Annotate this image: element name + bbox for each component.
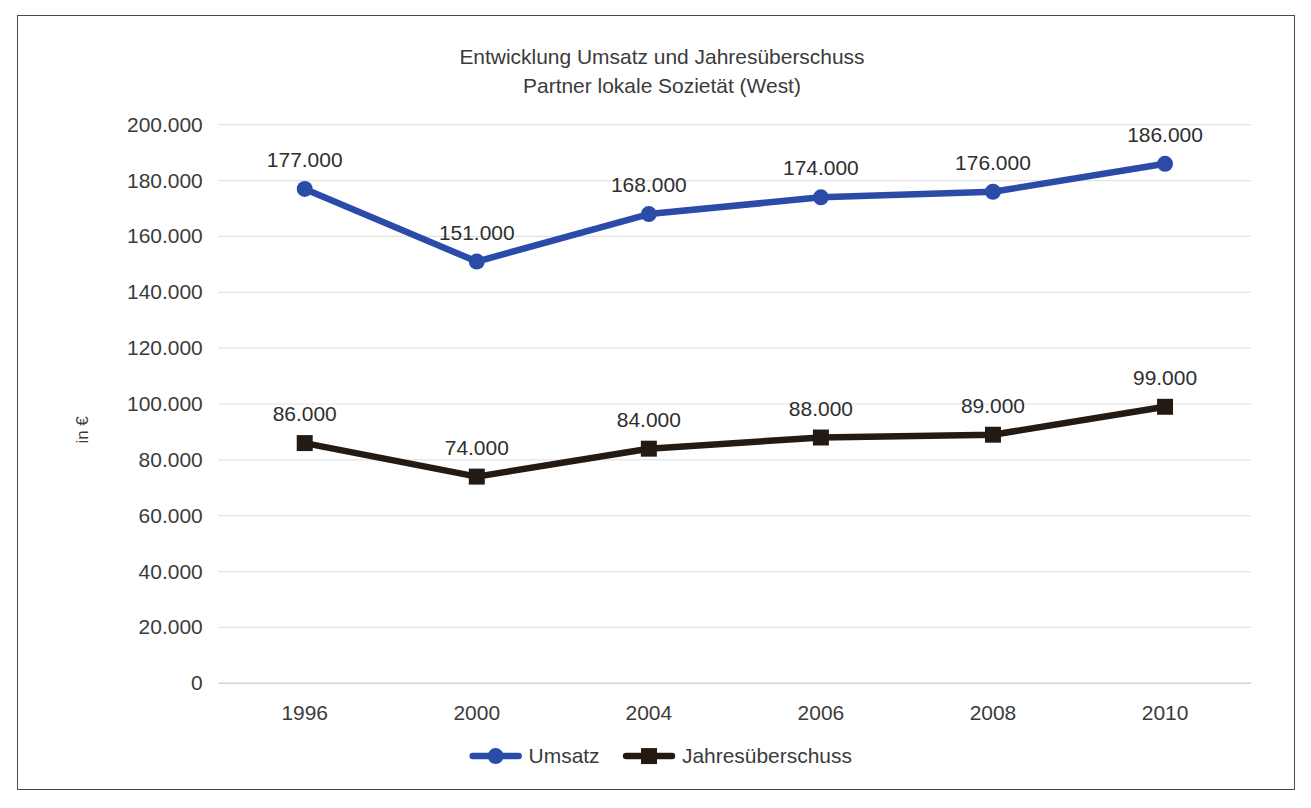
legend-item[interactable]: Umsatz xyxy=(473,744,600,767)
data-point-marker xyxy=(1157,399,1173,415)
y-tick-label: 160.000 xyxy=(127,224,203,247)
x-tick-label: 2000 xyxy=(453,701,500,724)
data-point-marker xyxy=(1157,156,1173,172)
y-tick-label: 140.000 xyxy=(127,280,203,303)
data-point-marker xyxy=(985,184,1001,200)
y-axis-title: in € xyxy=(73,416,92,444)
y-tick-label: 80.000 xyxy=(139,448,203,471)
data-point-marker xyxy=(813,189,829,205)
legend-label: Jahresüberschuss xyxy=(682,744,852,767)
legend-label: Umsatz xyxy=(529,744,600,767)
y-tick-label: 60.000 xyxy=(139,504,203,527)
legend-swatch-marker xyxy=(488,748,504,764)
data-label: 99.000 xyxy=(1133,366,1197,389)
legend-swatch-marker xyxy=(641,748,657,764)
y-tick-label: 120.000 xyxy=(127,336,203,359)
data-label: 186.000 xyxy=(1127,123,1203,146)
y-tick-label: 200.000 xyxy=(127,113,203,136)
data-point-marker xyxy=(469,469,485,485)
data-label: 177.000 xyxy=(267,148,343,171)
data-label: 176.000 xyxy=(955,151,1031,174)
data-point-marker xyxy=(297,435,313,451)
data-point-marker xyxy=(985,427,1001,443)
data-point-marker xyxy=(297,181,313,197)
x-tick-label: 2006 xyxy=(798,701,845,724)
data-label: 86.000 xyxy=(273,402,337,425)
data-point-marker xyxy=(641,441,657,457)
data-label: 74.000 xyxy=(445,436,509,459)
series-line-jahresüberschuss xyxy=(305,407,1165,477)
data-label: 88.000 xyxy=(789,397,853,420)
x-axis-tick-labels: 199620002004200620082010 xyxy=(281,701,1188,724)
data-label: 89.000 xyxy=(961,394,1025,417)
series-layer xyxy=(297,156,1173,485)
series-line-umsatz xyxy=(305,164,1165,262)
chart-frame: Entwicklung Umsatz und Jahresüberschuss … xyxy=(17,15,1295,790)
chart-legend: UmsatzJahresüberschuss xyxy=(473,744,852,767)
y-axis-tick-labels: 020.00040.00060.00080.000100.000120.0001… xyxy=(127,113,203,695)
data-point-marker xyxy=(469,254,485,270)
data-point-marker xyxy=(641,206,657,222)
data-label: 151.000 xyxy=(439,221,515,244)
legend-item[interactable]: Jahresüberschuss xyxy=(626,744,852,767)
data-label: 168.000 xyxy=(611,173,687,196)
y-tick-label: 20.000 xyxy=(139,615,203,638)
x-tick-label: 1996 xyxy=(281,701,328,724)
chart-subtitle: Partner lokale Sozietät (West) xyxy=(523,74,801,97)
x-tick-label: 2004 xyxy=(626,701,673,724)
data-label: 174.000 xyxy=(783,156,859,179)
x-tick-label: 2010 xyxy=(1142,701,1189,724)
y-tick-label: 40.000 xyxy=(139,560,203,583)
chart-title: Entwicklung Umsatz und Jahresüberschuss xyxy=(459,45,864,68)
y-tick-label: 180.000 xyxy=(127,169,203,192)
x-tick-label: 2008 xyxy=(970,701,1017,724)
line-chart: Entwicklung Umsatz und Jahresüberschuss … xyxy=(18,16,1294,789)
data-label: 84.000 xyxy=(617,408,681,431)
data-labels-layer: 177.000151.000168.000174.000176.000186.0… xyxy=(267,123,1203,459)
y-tick-label: 0 xyxy=(191,671,203,694)
data-point-marker xyxy=(813,430,829,446)
chart-page: Entwicklung Umsatz und Jahresüberschuss … xyxy=(0,0,1311,808)
y-tick-label: 100.000 xyxy=(127,392,203,415)
